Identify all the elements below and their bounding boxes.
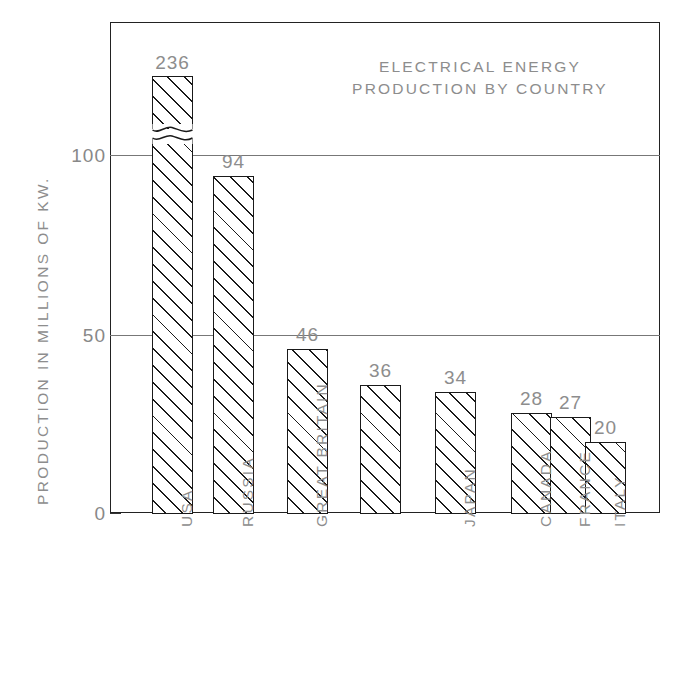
- bar-value-japan: 34: [425, 367, 486, 389]
- bar-value-france: 27: [540, 392, 601, 414]
- bar-value-germany: 36: [350, 360, 411, 382]
- x-category-label-japan: JAPAN: [461, 467, 479, 527]
- x-category-label-france: FRANCE: [576, 450, 594, 527]
- x-category-label-italy: ITALY: [611, 475, 629, 527]
- chart-title-line-2: PRODUCTION BY COUNTRY: [340, 78, 620, 100]
- bar-usa-lower: [152, 139, 193, 514]
- y-tick-mark-0: [110, 513, 121, 514]
- x-category-label-canada: CANADA: [537, 449, 555, 527]
- bar-value-russia: 94: [203, 151, 264, 173]
- x-category-label-usa: USA: [178, 489, 196, 527]
- chart-canvas: PRODUCTION IN MILLIONS OF KW. 100 50 0 E…: [0, 0, 675, 676]
- bar-value-italy: 20: [575, 417, 636, 439]
- bar-germany: [360, 385, 401, 514]
- x-category-label-great-britain: GREAT BRITAIN: [313, 382, 331, 527]
- chart-title-line-1: ELECTRICAL ENERGY: [340, 56, 620, 78]
- x-category-label-russia: RUSSIA: [239, 456, 257, 527]
- y-tick-label-0: 0: [46, 503, 106, 525]
- chart-title: ELECTRICAL ENERGY PRODUCTION BY COUNTRY: [340, 56, 620, 100]
- y-tick-label-100: 100: [46, 145, 106, 167]
- bar-value-great-britain: 46: [277, 324, 338, 346]
- y-tick-label-50: 50: [46, 325, 106, 347]
- bar-usa-upper: [152, 76, 193, 129]
- bar-value-usa: 236: [142, 52, 203, 74]
